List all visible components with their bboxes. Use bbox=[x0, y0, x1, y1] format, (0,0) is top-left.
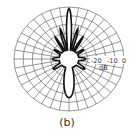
radiation-pattern-curve bbox=[53, 9, 86, 98]
tick-0: 0 bbox=[122, 57, 126, 65]
unit-label: dB bbox=[99, 64, 108, 72]
tick-minus-10: -10 bbox=[107, 57, 118, 65]
figure-caption: (b) bbox=[0, 116, 134, 129]
